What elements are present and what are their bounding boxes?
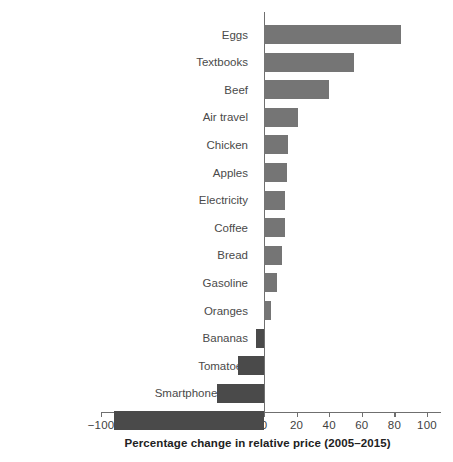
x-axis-title: Percentage change in relative price (200… bbox=[0, 437, 453, 449]
bar bbox=[264, 25, 401, 44]
bar bbox=[264, 163, 287, 182]
x-tick-label: 20 bbox=[290, 419, 303, 431]
x-axis-title-text: Percentage change in relative price (200… bbox=[124, 437, 390, 449]
x-tick-label: −100 bbox=[88, 419, 115, 431]
bar bbox=[264, 108, 298, 127]
x-tick bbox=[297, 412, 298, 417]
x-tick bbox=[264, 412, 265, 417]
x-tick bbox=[362, 412, 363, 417]
x-tick-label: 80 bbox=[388, 419, 401, 431]
bar bbox=[264, 80, 329, 99]
bar bbox=[264, 246, 282, 265]
x-tick bbox=[101, 412, 102, 417]
x-tick-label: 60 bbox=[355, 419, 368, 431]
x-tick bbox=[427, 412, 428, 417]
bar bbox=[256, 329, 264, 348]
bar bbox=[264, 135, 288, 154]
bar-chart: EggsTextbooksBeefAir travelChickenApples… bbox=[0, 0, 453, 462]
bar bbox=[264, 191, 285, 210]
x-tick-label: 100 bbox=[417, 419, 437, 431]
bar bbox=[217, 384, 264, 403]
bar bbox=[264, 273, 277, 292]
bar bbox=[264, 301, 271, 320]
bar bbox=[114, 411, 264, 430]
x-tick-label: 40 bbox=[323, 419, 336, 431]
zero-axis-line bbox=[264, 12, 265, 412]
bar bbox=[264, 218, 285, 237]
plot-area bbox=[101, 12, 427, 412]
bar bbox=[264, 53, 354, 72]
bar bbox=[238, 356, 264, 375]
x-tick bbox=[329, 412, 330, 417]
x-tick bbox=[394, 412, 395, 417]
